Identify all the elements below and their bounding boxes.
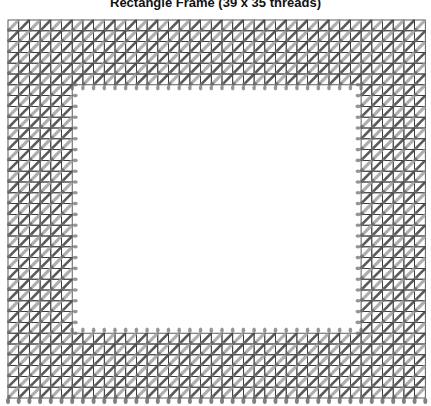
stitch-grid bbox=[0, 0, 431, 406]
